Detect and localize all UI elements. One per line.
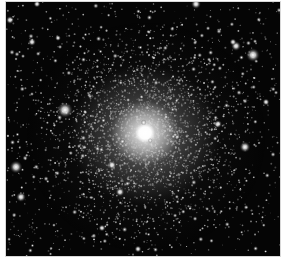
star-cluster-photo xyxy=(6,2,280,256)
bright-stars xyxy=(6,2,280,256)
